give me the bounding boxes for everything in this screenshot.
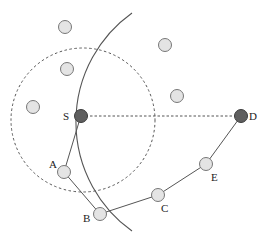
node-unlabeled-2 <box>61 63 74 76</box>
node-c <box>152 189 165 202</box>
label-e: E <box>211 171 218 183</box>
node-a <box>58 166 71 179</box>
node-unlabeled-5 <box>171 90 184 103</box>
label-a: A <box>49 158 57 170</box>
node-unlabeled-3 <box>27 101 40 114</box>
node-e <box>200 158 213 171</box>
label-destination: D <box>249 110 257 122</box>
node-unlabeled-4 <box>159 39 172 52</box>
node-unlabeled-1 <box>59 21 72 34</box>
label-source: S <box>63 110 69 122</box>
node-b <box>94 208 107 221</box>
network-diagram: S D A B C E <box>0 0 267 242</box>
label-b: B <box>83 212 90 224</box>
node-source <box>75 110 88 123</box>
label-c: C <box>161 202 168 214</box>
node-destination <box>235 110 248 123</box>
